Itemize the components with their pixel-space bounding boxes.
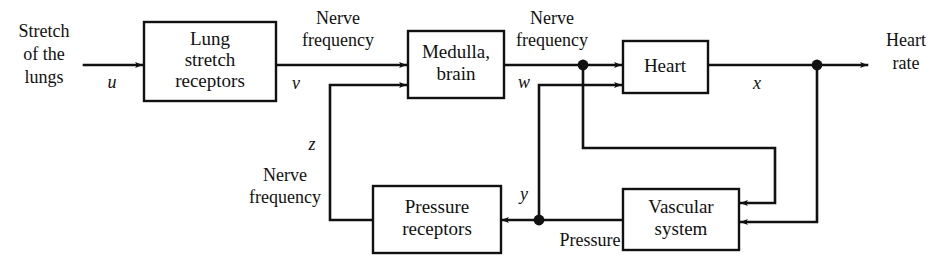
label-output-heart-rate-line2: rate	[893, 53, 920, 73]
block-vascular-system-label-line2: system	[655, 218, 708, 239]
block-lung-stretch-receptors-label-line3: receptors	[175, 70, 245, 91]
label-input-stretch-line1: Stretch	[19, 21, 70, 41]
label-nerve-frequency-v-line2: frequency	[302, 30, 374, 50]
junction-dot-x	[812, 60, 823, 71]
variable-label-y: y	[518, 184, 528, 204]
label-nerve-frequency-w-line2: frequency	[516, 30, 588, 50]
variable-label-z: z	[307, 134, 315, 154]
variable-label-v: v	[292, 73, 300, 93]
block-medulla-brain-label-line1: Medulla,	[422, 41, 490, 62]
diagram-canvas: Lung stretch receptors Medulla, brain He…	[0, 0, 947, 270]
label-pressure: Pressure	[560, 230, 621, 250]
junction-dot-w	[578, 60, 589, 71]
block-pressure-receptors-label-line2: receptors	[402, 218, 472, 239]
label-output-heart-rate-line1: Heart	[886, 30, 926, 50]
variable-label-x: x	[752, 73, 761, 93]
label-nerve-frequency-w-line1: Nerve	[530, 8, 574, 28]
label-nerve-frequency-z-line2: frequency	[249, 187, 321, 207]
label-input-stretch-line3: lungs	[24, 67, 63, 87]
variable-label-w: w	[518, 72, 530, 92]
block-lung-stretch-receptors-label-line1: Lung	[190, 28, 231, 49]
variable-label-u: u	[108, 72, 117, 92]
block-pressure-receptors[interactable]: Pressure receptors	[373, 186, 501, 253]
block-lung-stretch-receptors[interactable]: Lung stretch receptors	[144, 22, 276, 101]
block-vascular-system-label-line1: Vascular	[648, 196, 714, 217]
junction-dot-y	[534, 215, 545, 226]
label-nerve-frequency-v-line1: Nerve	[316, 8, 360, 28]
block-lung-stretch-receptors-label-line2: stretch	[185, 49, 236, 70]
block-medulla-brain-label-line2: brain	[436, 63, 476, 84]
block-heart-label-line1: Heart	[644, 55, 687, 76]
block-pressure-receptors-label-line1: Pressure	[405, 196, 469, 217]
block-vascular-system[interactable]: Vascular system	[623, 189, 739, 250]
label-input-stretch-line2: of the	[23, 44, 64, 64]
block-medulla-brain[interactable]: Medulla, brain	[408, 31, 504, 98]
block-diagram-figure: Lung stretch receptors Medulla, brain He…	[0, 0, 947, 270]
block-heart[interactable]: Heart	[623, 41, 708, 93]
wire-y-branch-to-heart	[539, 85, 621, 220]
label-nerve-frequency-z-line1: Nerve	[263, 165, 307, 185]
